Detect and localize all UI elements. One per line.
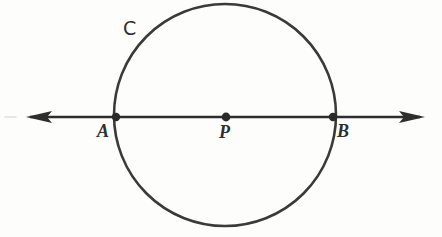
- geometry-drawing: [0, 0, 442, 237]
- point-a-dot: [112, 113, 120, 121]
- label-circle-c: C: [123, 19, 136, 38]
- point-b-dot: [329, 113, 337, 121]
- point-p-dot: [222, 113, 231, 122]
- label-point-b: B: [337, 122, 349, 140]
- figure-canvas: A P B C: [0, 0, 442, 237]
- label-point-a: A: [97, 122, 109, 140]
- label-point-p: P: [219, 123, 230, 141]
